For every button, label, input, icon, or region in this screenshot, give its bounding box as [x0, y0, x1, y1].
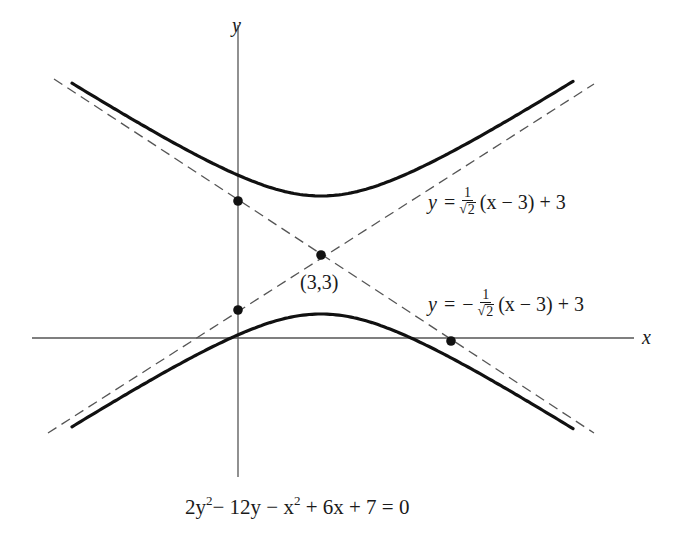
fraction-denominator: √2	[477, 303, 494, 319]
asymptote-lower-equation: y = − 1 √2 (x − 3) + 3	[428, 288, 584, 319]
eq-sign: −	[462, 294, 473, 314]
center-point-label: (3,3)	[300, 272, 338, 292]
eq-rest: (x − 3) + 3	[498, 294, 584, 314]
eq-rest: (x − 3) + 3	[480, 192, 566, 212]
x-axis-label: x	[642, 327, 651, 347]
point-y-intercept-lower	[233, 305, 243, 315]
radical-icon: √	[477, 304, 485, 318]
eq-lhs: y	[428, 294, 437, 314]
asymptote-upper-equation: y = 1 √2 (x − 3) + 3	[428, 186, 566, 217]
point-center	[316, 250, 326, 260]
hyperbola-upper-branch	[72, 81, 573, 196]
eq-equals: =	[444, 192, 455, 212]
fraction: 1 √2	[477, 288, 494, 319]
hyperbola-equation-caption: 2y2− 12y − x2 + 6x + 7 = 0	[185, 494, 409, 518]
y-axis-label: y	[232, 15, 241, 35]
hyperbola-lower-branch	[72, 314, 573, 429]
eq-lhs: y	[428, 192, 437, 212]
point-y-intercept-upper	[233, 196, 243, 206]
fraction-numerator: 1	[462, 186, 473, 201]
radical-icon: √	[459, 202, 467, 216]
eq-equals: =	[444, 294, 455, 314]
fraction-denominator: √2	[459, 201, 476, 217]
fraction: 1 √2	[459, 186, 476, 217]
hyperbola-diagram	[0, 0, 692, 545]
point-x-intercept	[446, 336, 456, 346]
fraction-numerator: 1	[480, 288, 491, 303]
